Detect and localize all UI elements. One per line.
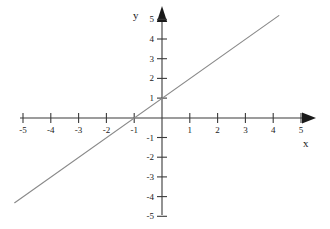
x-tick-label-4: 4 [271, 126, 276, 135]
y-tick-label--5: -5 [147, 212, 155, 221]
y-tick-label-2: 2 [150, 74, 155, 83]
x-tick-label-3: 3 [243, 126, 248, 135]
y-tick-label--2: -2 [147, 153, 155, 162]
y-tick-label--3: -3 [147, 172, 155, 181]
x-tick-label--3: -3 [75, 126, 83, 135]
y-tick-label--4: -4 [147, 192, 155, 201]
x-axis-label: x [303, 138, 309, 149]
x-tick-label-2: 2 [215, 126, 220, 135]
y-tick-label-5: 5 [150, 15, 155, 24]
x-tick-label-1: 1 [188, 126, 193, 135]
y-tick-label-4: 4 [150, 35, 155, 44]
coordinate-plane-figure: -5 -4 -3 -2 -1 1 2 3 4 5 5 4 3 2 1 -1 -2… [0, 0, 330, 229]
x-tick-label--4: -4 [47, 126, 55, 135]
y-tick-label--1: -1 [147, 133, 155, 142]
x-axis-arrowhead [302, 113, 316, 124]
x-tick-label--1: -1 [130, 126, 138, 135]
x-tick-label--5: -5 [19, 126, 27, 135]
y-axis-label: y [133, 10, 139, 21]
y-tick-label-3: 3 [150, 54, 155, 63]
y-tick-label-1: 1 [150, 94, 155, 103]
x-tick-label--2: -2 [103, 126, 111, 135]
x-tick-label-5: 5 [299, 126, 304, 135]
graph-canvas [0, 0, 330, 229]
